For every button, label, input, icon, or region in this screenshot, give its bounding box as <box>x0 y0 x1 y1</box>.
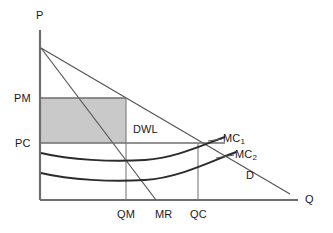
x-axis-label: Q <box>305 194 314 205</box>
marginal-cost-1-base-text: MC <box>223 132 240 144</box>
price-competitive-label: PC <box>15 138 30 149</box>
monopoly-dwl-chart <box>0 0 333 233</box>
marginal-cost-2-label: MC2 <box>235 149 257 160</box>
demand-curve-label: D <box>246 170 254 181</box>
marginal-cost-2-base-text: MC <box>235 148 252 160</box>
y-axis-label: P <box>36 10 43 21</box>
deadweight-loss-label: DWL <box>133 124 158 135</box>
economics-diagram: P Q PM PC QM MR QC DWL MC1 MC2 D <box>0 0 333 233</box>
marginal-cost-1-label: MC1 <box>223 133 245 144</box>
quantity-monopoly-label: QM <box>117 209 135 220</box>
marginal-revenue-label: MR <box>155 209 172 220</box>
marginal-cost-1-subscript: 1 <box>240 137 245 146</box>
marginal-cost-2-subscript: 2 <box>252 153 257 162</box>
price-monopoly-label: PM <box>14 93 31 104</box>
quantity-competitive-label: QC <box>190 209 207 220</box>
